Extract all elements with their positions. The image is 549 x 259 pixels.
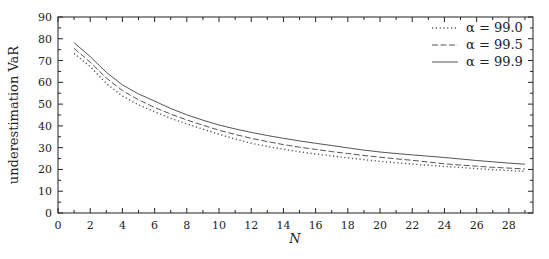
x-tick-label: 10 — [212, 219, 226, 232]
axes: 0246810121416182022242628010203040506070… — [38, 11, 533, 232]
y-axis-label: underestimation VaR — [6, 45, 21, 184]
x-tick-label: 22 — [405, 219, 419, 232]
x-tick-label: 28 — [502, 219, 516, 232]
y-tick-label: 50 — [38, 98, 52, 111]
y-tick-label: 20 — [38, 163, 52, 176]
x-tick-label: 18 — [341, 219, 355, 232]
y-tick-label: 70 — [38, 55, 52, 68]
y-tick-label: 30 — [38, 142, 52, 155]
x-tick-label: 4 — [119, 219, 126, 232]
y-tick-label: 90 — [38, 11, 52, 24]
legend-label: α = 99.0 — [466, 20, 523, 35]
y-tick-label: 10 — [38, 185, 52, 198]
series-line-dashed — [74, 48, 525, 169]
plot-frame — [58, 17, 533, 213]
series-line-solid — [74, 43, 525, 165]
x-tick-label: 20 — [373, 219, 387, 232]
series-line-dotted — [74, 53, 525, 171]
y-tick-label: 80 — [38, 33, 52, 46]
x-axis-label: N — [288, 231, 301, 246]
chart: 0246810121416182022242628010203040506070… — [0, 0, 549, 259]
x-tick-label: 6 — [151, 219, 158, 232]
x-tick-label: 2 — [87, 219, 94, 232]
x-tick-label: 24 — [437, 219, 451, 232]
y-tick-label: 0 — [45, 207, 52, 220]
legend: α = 99.0α = 99.5α = 99.9 — [432, 20, 523, 69]
x-tick-label: 26 — [470, 219, 484, 232]
x-tick-label: 0 — [55, 219, 62, 232]
y-tick-label: 40 — [38, 120, 52, 133]
legend-label: α = 99.9 — [466, 54, 523, 69]
legend-label: α = 99.5 — [466, 37, 523, 52]
y-tick-label: 60 — [38, 76, 52, 89]
x-tick-label: 8 — [183, 219, 190, 232]
x-tick-label: 16 — [309, 219, 323, 232]
x-tick-label: 14 — [276, 219, 290, 232]
x-tick-label: 12 — [244, 219, 258, 232]
